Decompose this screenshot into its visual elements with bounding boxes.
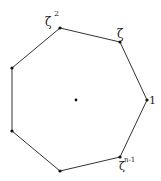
- vertex-zeta-squared: [58, 26, 61, 29]
- vertex-dots: [10, 26, 148, 172]
- label-one: 1: [149, 94, 156, 107]
- heptagon-diagram: 1 ζ ζ 2 ζ n-1: [0, 0, 161, 181]
- vertex-lower-left: [10, 129, 13, 132]
- label-zeta-squared-base: ζ: [45, 15, 52, 29]
- vertex-bottom: [58, 169, 61, 172]
- center-dot: [75, 99, 78, 102]
- vertex-zeta-n-minus-1: [118, 155, 121, 158]
- heptagon-outline: [12, 28, 147, 171]
- label-zeta: ζ: [117, 27, 124, 41]
- label-zeta-squared-exp: 2: [54, 9, 59, 18]
- label-zeta-n1-exp: n-1: [124, 156, 135, 164]
- vertex-upper-left: [10, 66, 13, 69]
